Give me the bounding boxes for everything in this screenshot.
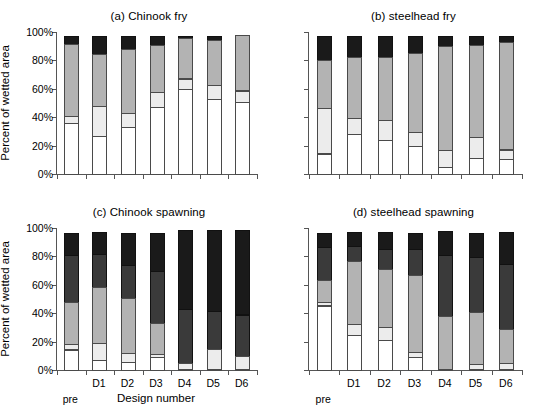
bar-segment (92, 106, 107, 137)
panel-d-steelhead-spawning: (d) steelhead spawning preD1D2D3D4D5D6 (270, 200, 543, 402)
bar-segment (235, 102, 250, 175)
bar-segment (178, 38, 193, 79)
bar-segment (317, 247, 332, 280)
bar-segment (178, 309, 193, 364)
stacked-bar (235, 228, 250, 370)
bar-segment (499, 329, 514, 365)
x-axis-category-label: D4 (178, 378, 191, 389)
bar-segment (207, 40, 222, 86)
bar-segment (378, 232, 393, 250)
bar-segment (178, 369, 193, 371)
x-axis-tick (114, 370, 115, 375)
bar-segment (499, 232, 514, 265)
bar-segment (408, 275, 423, 352)
bar-segment (150, 233, 165, 273)
bar-segment (150, 45, 165, 93)
bar-segment (347, 232, 362, 246)
bar-segment (207, 85, 222, 100)
bar-segment (235, 315, 250, 358)
bar-segment (121, 127, 136, 175)
stacked-bar (121, 32, 136, 174)
x-axis-tick (522, 174, 523, 179)
y-axis-tick-label: 0% (38, 169, 53, 180)
y-axis-tick (304, 32, 309, 33)
stacked-bar (347, 32, 362, 174)
stacked-bar (178, 32, 193, 174)
x-axis-tick (339, 174, 340, 179)
y-axis-tick-label: 20% (32, 336, 53, 347)
stacked-bar (499, 32, 514, 174)
y-axis-tick (304, 285, 309, 286)
stacked-bar (92, 32, 107, 174)
stacked-bar (317, 228, 332, 370)
x-axis-category-label: D1 (92, 378, 105, 389)
y-axis-tick (304, 256, 309, 257)
x-axis-tick (57, 174, 58, 179)
panel-a-y-axis-label: Percent of wetted area (0, 32, 12, 174)
bar-segment (347, 246, 362, 262)
bar-segment (92, 36, 107, 55)
bar-segment (347, 261, 362, 325)
x-axis-tick (400, 370, 401, 375)
bar-segment (408, 146, 423, 175)
x-axis-category-label: D3 (149, 378, 162, 389)
x-axis-tick (57, 370, 58, 375)
x-axis-tick (370, 370, 371, 375)
y-axis-tick (304, 89, 309, 90)
x-axis-category-label: D3 (408, 378, 421, 389)
bar-segment (499, 264, 514, 329)
panel-c-title: (c) Chinook spawning (0, 206, 272, 218)
bar-segment (438, 255, 453, 317)
bar-segment (121, 265, 136, 299)
x-axis-tick (171, 370, 172, 375)
x-axis-tick (461, 174, 462, 179)
bar-segment (317, 108, 332, 155)
bar-segment (378, 327, 393, 340)
bar-segment (207, 230, 222, 312)
bar-segment (347, 57, 362, 119)
bar-segment (347, 134, 362, 175)
bar-segment (121, 36, 136, 50)
y-axis-tick-label: 80% (32, 251, 53, 262)
y-axis-tick (304, 228, 309, 229)
x-axis-tick (200, 174, 201, 179)
y-axis-tick-label: 20% (32, 140, 53, 151)
bar-segment (499, 159, 514, 175)
x-axis-tick (431, 174, 432, 179)
bar-segment (378, 57, 393, 121)
panel-d-title: (d) steelhead spawning (270, 206, 543, 218)
panel-c-plot-area: 0%20%40%60%80%100% (56, 228, 257, 371)
x-axis-category-label: D6 (499, 378, 512, 389)
x-axis-tick (86, 174, 87, 179)
x-axis-category-label: D2 (377, 378, 390, 389)
x-axis-category-label: D4 (438, 378, 451, 389)
bar-segment (92, 287, 107, 345)
bar-segment (121, 113, 136, 129)
y-axis-tick-label: 40% (32, 308, 53, 319)
panel-d-plot-area (308, 228, 522, 371)
bar-segment (408, 53, 423, 133)
stacked-bar (64, 228, 79, 370)
bar-segment (469, 369, 484, 371)
bar-segment (438, 316, 453, 370)
y-axis-tick-label: 100% (26, 223, 53, 234)
bar-segment (469, 137, 484, 158)
x-axis-category-label: D6 (235, 378, 248, 389)
bar-segment (317, 306, 332, 371)
x-axis-tick (339, 370, 340, 375)
x-axis-tick (228, 370, 229, 375)
panel-a-y-axis-label-text: Percent of wetted area (0, 45, 11, 161)
x-axis-category-label: D2 (121, 378, 134, 389)
bar-segment (378, 340, 393, 371)
stacked-bar (469, 32, 484, 174)
x-axis-tick (143, 174, 144, 179)
stacked-bar (438, 32, 453, 174)
stacked-bar (438, 228, 453, 370)
bar-segment (92, 343, 107, 361)
bar-segment (378, 249, 393, 270)
bar-segment (235, 356, 250, 369)
bar-segment (438, 150, 453, 168)
x-axis-category-label: D1 (347, 378, 360, 389)
stacked-bar (121, 228, 136, 370)
bar-segment (469, 257, 484, 313)
